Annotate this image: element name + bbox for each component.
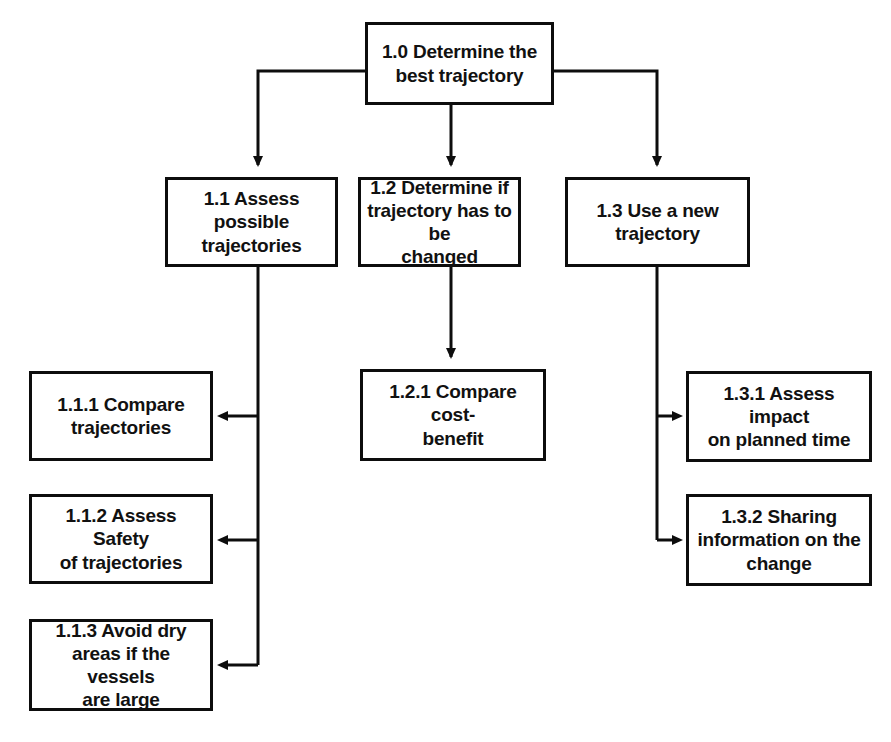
node-1-2-1[interactable]: 1.2.1 Compare cost- benefit (360, 369, 546, 461)
node-1-1-1-label: 1.1.1 Compare trajectories (51, 393, 190, 439)
node-1-3-2[interactable]: 1.3.2 Sharing information on the change (686, 494, 872, 586)
node-1-1-2-label: 1.1.2 Assess Safety of trajectories (32, 504, 210, 574)
node-1-1-1[interactable]: 1.1.1 Compare trajectories (29, 371, 213, 461)
connector-root-to-1-1 (258, 71, 365, 165)
node-1-2-1-label: 1.2.1 Compare cost- benefit (363, 380, 543, 450)
node-1-3-1-label: 1.3.1 Assess impact on planned time (689, 382, 869, 452)
node-1-3-label: 1.3 Use a new trajectory (590, 199, 724, 245)
node-1-1-2[interactable]: 1.1.2 Assess Safety of trajectories (29, 494, 213, 584)
node-1-3-2-label: 1.3.2 Sharing information on the change (691, 505, 866, 575)
node-1-1-label: 1.1 Assess possible trajectories (168, 187, 335, 257)
node-1-1[interactable]: 1.1 Assess possible trajectories (165, 177, 338, 267)
node-1-0[interactable]: 1.0 Determine the best trajectory (365, 22, 554, 105)
node-1-1-3-label: 1.1.3 Avoid dry areas if the vessels are… (32, 619, 210, 712)
node-1-2-label: 1.2 Determine if trajectory has to be ch… (361, 176, 518, 269)
node-1-2[interactable]: 1.2 Determine if trajectory has to be ch… (358, 177, 521, 267)
node-1-0-label: 1.0 Determine the best trajectory (376, 40, 543, 86)
node-1-1-3[interactable]: 1.1.3 Avoid dry areas if the vessels are… (29, 619, 213, 711)
diagram-canvas: 1.0 Determine the best trajectory 1.1 As… (0, 0, 891, 742)
node-1-3-1[interactable]: 1.3.1 Assess impact on planned time (686, 371, 872, 462)
node-1-3[interactable]: 1.3 Use a new trajectory (565, 177, 750, 267)
connector-root-to-1-3 (554, 71, 657, 165)
